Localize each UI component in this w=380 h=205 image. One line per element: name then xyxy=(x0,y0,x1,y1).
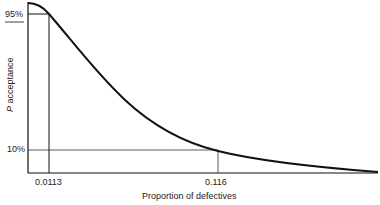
x-tick-label-0116: 0.116 xyxy=(205,177,227,187)
y-axis-label-p: P xyxy=(5,106,15,112)
oc-curve-chart xyxy=(0,0,380,205)
y-axis-label: P acceptance xyxy=(5,57,15,112)
oc-curve xyxy=(28,3,378,172)
y-tick-label-10: 10% xyxy=(7,144,25,154)
y-tick-label-95: 95% xyxy=(5,9,23,19)
x-tick-label-0113: 0.0113 xyxy=(35,177,62,187)
x-axis-label: Proportion of defectives xyxy=(142,191,237,201)
y-axis-label-rest: acceptance xyxy=(5,57,15,106)
